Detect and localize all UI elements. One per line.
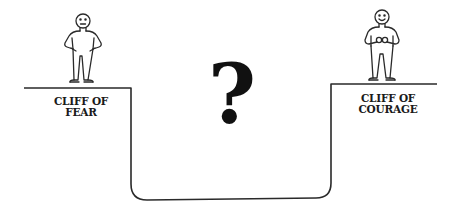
cliff-of-fear-label: CLIFF OF FEAR — [46, 96, 116, 118]
cliff-of-courage-label: CLIFF OF COURAGE — [348, 93, 428, 115]
courage-figure — [365, 10, 399, 80]
fear-figure — [65, 14, 102, 82]
question-mark: ? — [204, 54, 260, 134]
cliff-of-courage-label-line2: COURAGE — [348, 104, 428, 115]
cliff-of-fear-label-line2: FEAR — [46, 107, 116, 118]
